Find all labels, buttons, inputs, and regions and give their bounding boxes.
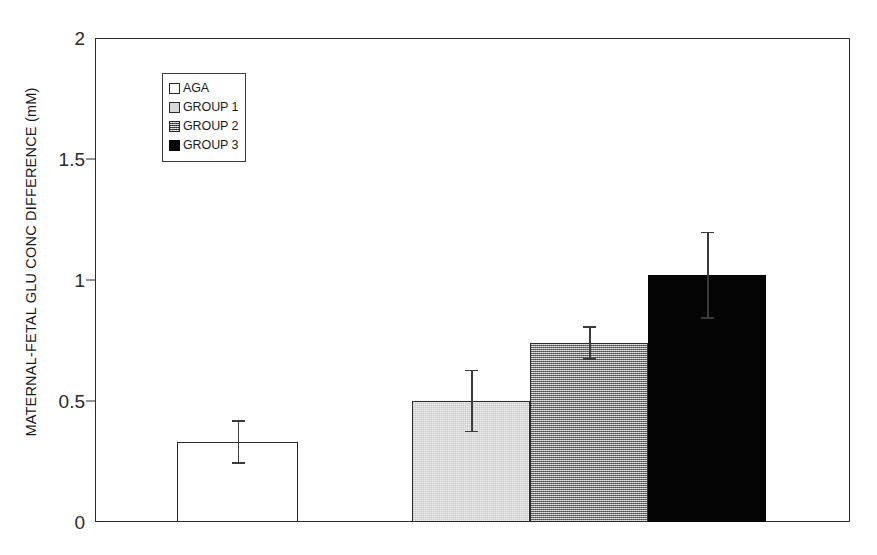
y-axis-tick-labels: 2 1.5 1 0.5 0 xyxy=(40,0,85,555)
legend-item-group-2: GROUP 2 xyxy=(169,117,239,136)
y-tick-label-1p5: 1.5 xyxy=(45,150,85,169)
legend-label-group-1: GROUP 1 xyxy=(183,101,238,114)
legend-item-group-3: GROUP 3 xyxy=(169,136,239,155)
legend-box: AGA GROUP 1 GROUP 2 GROUP 3 xyxy=(162,73,246,162)
legend-swatch-group-3-icon xyxy=(169,140,180,151)
legend-swatch-group-2-icon xyxy=(169,121,180,132)
legend-label-aga: AGA xyxy=(183,82,209,95)
y-tick-label-2: 2 xyxy=(45,29,85,48)
legend-item-group-1: GROUP 1 xyxy=(169,98,239,117)
legend-swatch-group-1-icon xyxy=(169,102,180,113)
legend-label-group-3: GROUP 3 xyxy=(183,139,238,152)
y-tick-label-1: 1 xyxy=(45,271,85,290)
y-tick-label-0p5: 0.5 xyxy=(45,392,85,411)
legend-swatch-aga-icon xyxy=(169,83,180,94)
y-tick-mark-0p5 xyxy=(86,401,95,402)
legend-label-group-2: GROUP 2 xyxy=(183,120,238,133)
legend-item-aga: AGA xyxy=(169,79,239,98)
y-tick-label-0: 0 xyxy=(45,513,85,532)
bar-chart-figure: MATERNAL-FETAL GLU CONC DIFFERENCE (mM) … xyxy=(0,0,877,555)
y-tick-mark-1 xyxy=(86,280,95,281)
y-tick-mark-1p5 xyxy=(86,159,95,160)
